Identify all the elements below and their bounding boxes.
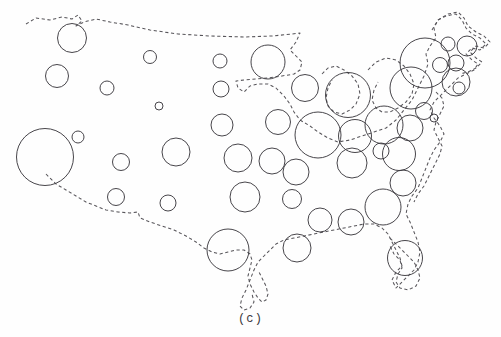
- symbol-circle: [266, 110, 291, 135]
- symbol-circle: [17, 129, 74, 186]
- michigan-outline-path: [368, 58, 414, 112]
- symbol-circle: [295, 112, 341, 158]
- symbol-circle: [46, 65, 69, 88]
- symbol-circle: [113, 154, 130, 171]
- symbol-circle: [230, 182, 260, 212]
- figure-caption: (c): [0, 312, 501, 326]
- symbol-circle: [283, 159, 309, 185]
- symbol-circle: [251, 45, 285, 79]
- symbol-circle: [160, 195, 176, 211]
- figure-root: (c): [0, 0, 501, 337]
- symbol-circle: [292, 75, 319, 102]
- symbol-circle: [453, 82, 465, 94]
- symbol-circle: [213, 54, 227, 68]
- gulf-coast-path: [46, 174, 268, 302]
- symbol-circle: [108, 189, 125, 206]
- symbol-circle: [213, 81, 229, 97]
- symbol-circle: [224, 144, 252, 172]
- symbol-circle: [162, 138, 190, 166]
- symbol-circle: [211, 114, 233, 136]
- symbol-circle: [144, 51, 157, 64]
- florida-outline-path: [390, 238, 420, 290]
- us-outline-path: [26, 14, 486, 310]
- symbol-circle: [155, 102, 163, 110]
- symbol-circle: [390, 170, 416, 196]
- symbol-circle: [283, 190, 302, 209]
- symbol-circle: [339, 120, 372, 153]
- symbol-layer: [17, 24, 478, 276]
- symbol-circle: [433, 58, 448, 73]
- symbol-circle: [373, 143, 389, 159]
- symbol-circle: [365, 189, 401, 225]
- symbol-circle: [283, 234, 311, 262]
- symbol-circle: [397, 115, 423, 141]
- symbol-circle: [100, 81, 114, 95]
- symbol-circle: [58, 24, 87, 53]
- proportional-symbol-map: [0, 0, 501, 337]
- symbol-circle: [442, 68, 470, 96]
- symbol-circle: [338, 209, 364, 235]
- symbol-circle: [72, 131, 84, 143]
- symbol-circle: [383, 138, 416, 171]
- symbol-circle: [457, 36, 477, 56]
- symbol-circle: [308, 208, 332, 232]
- symbol-circle: [259, 148, 285, 174]
- symbol-circle: [388, 241, 423, 276]
- symbol-circle: [441, 37, 455, 51]
